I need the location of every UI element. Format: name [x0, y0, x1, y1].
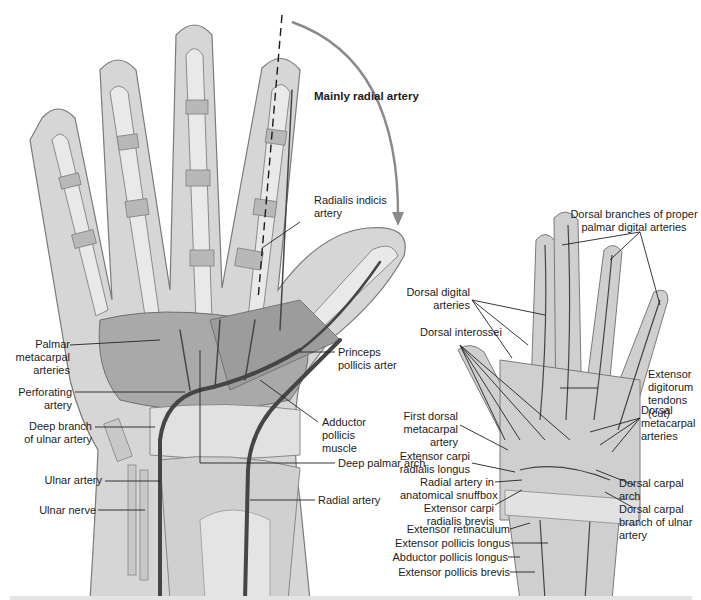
- label-line: Dorsal carpal: [619, 503, 692, 516]
- label-line: metacarpal: [400, 423, 458, 436]
- label-line: arteries: [0, 364, 70, 377]
- label-line: Deep branch: [0, 420, 92, 433]
- label-line: artery: [0, 399, 72, 412]
- label-line: Adductor: [322, 416, 366, 429]
- label-line: of ulnar artery: [0, 433, 92, 446]
- label-line: artery: [314, 207, 387, 220]
- label-dorsal-digital-arteries: Dorsal digital arteries: [400, 286, 470, 312]
- label-line: arteries: [641, 430, 695, 443]
- label-ulnar-nerve: Ulnar nerve: [0, 504, 96, 517]
- label-radialis-indicis-artery: Radialis indicis artery: [314, 194, 387, 220]
- label-line: arteries: [400, 299, 470, 312]
- label-line: arch: [619, 490, 684, 503]
- label-line: palmar digital arteries: [568, 221, 700, 234]
- label-line: metacarpal: [641, 417, 695, 430]
- label-line: anatomical snuffbox: [400, 489, 494, 502]
- label-line: Extensor carpi: [420, 502, 494, 515]
- label-ulnar-artery: Ulnar artery: [0, 474, 102, 487]
- label-princeps-pollicis-artery: Princeps pollicis arter: [338, 346, 397, 372]
- label-palmar-metacarpal-arteries: Palmar metacarpal arteries: [0, 338, 70, 377]
- label-radial-artery-anatomical-snuffbox: Radial artery in anatomical snuffbox: [400, 476, 494, 502]
- label-line: Radialis indicis: [314, 194, 387, 207]
- label-line: Dorsal digital: [400, 286, 470, 299]
- label-line: First dorsal: [400, 410, 458, 423]
- bottom-divider-band: [10, 596, 692, 600]
- label-line: metacarpal: [0, 351, 70, 364]
- label-mainly-radial-artery: Mainly radial artery: [314, 90, 419, 103]
- label-deep-branch-ulnar-artery: Deep branch of ulnar artery: [0, 420, 92, 446]
- label-line: radialis longus: [396, 463, 470, 476]
- label-radial-artery: Radial artery: [318, 494, 380, 507]
- label-line: Dorsal carpal: [619, 477, 684, 490]
- label-line: Palmar: [0, 338, 70, 351]
- label-dorsal-branches-proper-palmar-digital: Dorsal branches of proper palmar digital…: [568, 208, 700, 234]
- label-line: digitorum: [648, 381, 693, 394]
- label-extensor-carpi-radialis-longus: Extensor carpi radialis longus: [396, 450, 470, 476]
- label-dorsal-interossei: Dorsal interossei: [420, 326, 502, 339]
- label-line: artery: [400, 436, 458, 449]
- label-extensor-pollicis-longus: Extensor pollicis longus: [390, 537, 510, 550]
- label-line: artery: [619, 529, 692, 542]
- label-line: muscle: [322, 442, 366, 455]
- label-line: pollicis arter: [338, 359, 397, 372]
- label-dorsal-carpal-branch-ulnar-artery: Dorsal carpal branch of ulnar artery: [619, 503, 692, 542]
- label-line: Extensor: [648, 368, 693, 381]
- label-adductor-pollicis-muscle: Adductor pollicis muscle: [322, 416, 366, 455]
- mainly-radial-arrow: [292, 22, 398, 220]
- label-line: Extensor carpi: [396, 450, 470, 463]
- label-line: Princeps: [338, 346, 397, 359]
- label-extensor-pollicis-brevis: Extensor pollicis brevis: [390, 566, 510, 579]
- label-dorsal-metacarpal-arteries: Dorsal metacarpal arteries: [641, 404, 695, 443]
- label-perforating-artery: Perforating artery: [0, 386, 72, 412]
- label-extensor-retinaculum: Extensor retinaculum: [400, 523, 510, 536]
- label-line: Dorsal: [641, 404, 695, 417]
- label-line: branch of ulnar: [619, 516, 692, 529]
- label-abductor-pollicis-longus: Abductor pollicis longus: [388, 551, 508, 564]
- label-line: Radial artery in: [400, 476, 494, 489]
- label-line: Dorsal branches of proper: [568, 208, 700, 221]
- label-line: Perforating: [0, 386, 72, 399]
- label-dorsal-carpal-arch: Dorsal carpal arch: [619, 477, 684, 503]
- label-line: pollicis: [322, 429, 366, 442]
- label-first-dorsal-metacarpal-artery: First dorsal metacarpal artery: [400, 410, 458, 449]
